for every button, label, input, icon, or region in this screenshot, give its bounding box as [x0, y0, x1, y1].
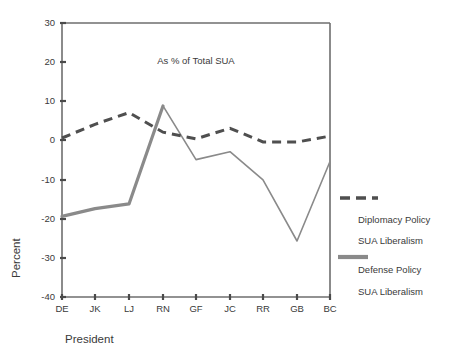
- x-tick-label-rn: RN: [156, 303, 170, 314]
- x-axis-tick-labels: DE JK LJ RN GF JC RR GB BC: [55, 303, 336, 314]
- y-tick-label-neg30: -30: [41, 252, 55, 263]
- series-diplomacy-policy: [62, 113, 330, 142]
- x-tick-label-de: DE: [55, 303, 68, 314]
- y-tick-label-neg40: -40: [41, 291, 55, 302]
- y-tick-label-0: 0: [50, 134, 55, 145]
- legend-label-defense-policy: Defense Policy: [358, 264, 422, 275]
- y-tick-label-30: 30: [44, 17, 55, 28]
- series-defense-policy-segment-b: [163, 106, 330, 241]
- x-tick-label-jk: JK: [89, 303, 101, 314]
- legend-label-defense-sua-liberalism: SUA Liberalism: [358, 286, 423, 297]
- y-axis-title: Percent: [10, 238, 22, 278]
- y-tick-label-10: 10: [44, 95, 55, 106]
- x-tick-label-jc: JC: [224, 303, 236, 314]
- y-axis-tick-labels: 30 20 10 0 -10 -20 -30 -40: [41, 17, 55, 302]
- x-tick-label-bc: BC: [323, 303, 336, 314]
- chart-legend: Diplomacy Policy SUA Liberalism Defense …: [338, 198, 431, 297]
- x-tick-label-gf: GF: [189, 303, 202, 314]
- x-tick-label-gb: GB: [290, 303, 304, 314]
- y-tick-label-20: 20: [44, 56, 55, 67]
- x-tick-label-lj: LJ: [124, 303, 134, 314]
- legend-label-diplomacy-sua-liberalism: SUA Liberalism: [358, 235, 423, 246]
- x-axis-title: President: [65, 333, 114, 345]
- y-tick-label-neg20: -20: [41, 213, 55, 224]
- x-tick-label-rr: RR: [256, 303, 270, 314]
- chart-canvas: 30 20 10 0 -10 -20 -30 -40 DE JK LJ RN: [0, 0, 451, 353]
- chart-figure: 30 20 10 0 -10 -20 -30 -40 DE JK LJ RN: [0, 0, 451, 353]
- y-tick-label-neg10: -10: [41, 174, 55, 185]
- plot-annotation: As % of Total SUA: [157, 55, 235, 66]
- y-axis-ticks: [60, 23, 66, 297]
- legend-label-diplomacy-policy: Diplomacy Policy: [358, 214, 431, 225]
